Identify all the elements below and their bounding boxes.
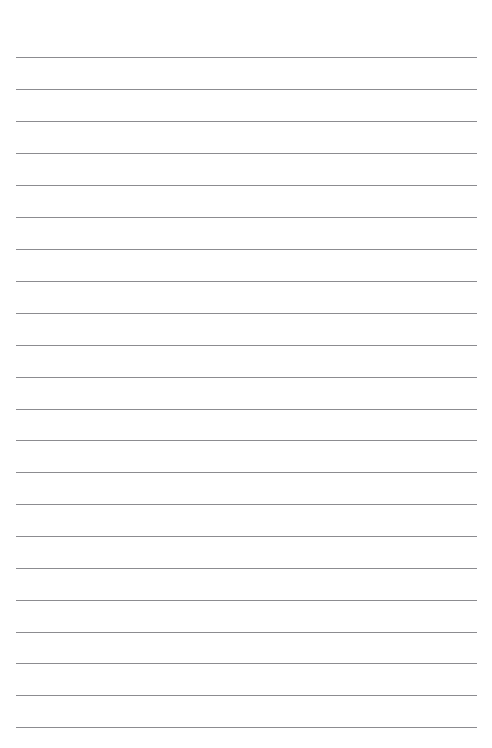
writing-line-slot[interactable] — [0, 601, 492, 633]
writing-line-slot[interactable] — [0, 505, 492, 537]
writing-line-slot[interactable] — [0, 378, 492, 410]
writing-line-slot[interactable] — [0, 537, 492, 569]
writing-line-slot[interactable] — [0, 696, 492, 728]
writing-line-slot[interactable] — [0, 154, 492, 186]
writing-line-slot[interactable] — [0, 250, 492, 282]
writing-line-slot[interactable] — [0, 58, 492, 90]
writing-line-slot[interactable] — [0, 218, 492, 250]
writing-line-slot[interactable] — [0, 346, 492, 378]
writing-line-slot[interactable] — [0, 664, 492, 696]
writing-line-slot[interactable] — [0, 186, 492, 218]
writing-line-slot[interactable] — [0, 569, 492, 601]
page-sheet — [0, 0, 492, 748]
writing-line-slot[interactable] — [0, 90, 492, 122]
writing-area[interactable] — [0, 0, 492, 748]
writing-line-slot[interactable] — [0, 314, 492, 346]
writing-line-slot[interactable] — [0, 632, 492, 664]
writing-line-slot[interactable] — [0, 26, 492, 58]
writing-line-slot[interactable] — [0, 441, 492, 473]
writing-line-slot[interactable] — [0, 473, 492, 505]
writing-line-slot[interactable] — [0, 282, 492, 314]
rule-line — [16, 727, 477, 728]
writing-line-slot[interactable] — [0, 409, 492, 441]
writing-line-slot[interactable] — [0, 122, 492, 154]
